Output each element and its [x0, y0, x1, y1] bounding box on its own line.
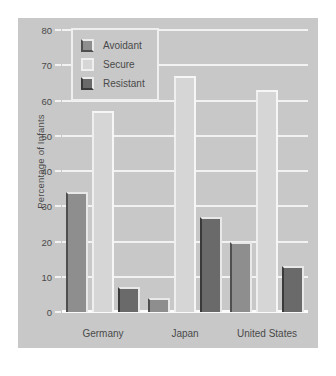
- y-axis-tick: [55, 64, 61, 66]
- legend-label-resistant: Resistant: [103, 78, 145, 89]
- bar-body: [230, 242, 252, 313]
- bar-germany-avoidant: [66, 192, 88, 312]
- y-axis-tick-label: 30: [41, 201, 52, 212]
- chart-legend: Avoidant Secure Resistant: [71, 28, 159, 101]
- bar-body: [256, 90, 278, 312]
- legend-swatch-secure-icon: [81, 58, 94, 71]
- y-axis-tick: [55, 100, 61, 102]
- y-axis-tick-label: 40: [41, 166, 52, 177]
- x-axis-label-germany: Germany: [82, 328, 123, 339]
- y-axis-tick-label: 60: [41, 95, 52, 106]
- bar-body: [118, 287, 140, 312]
- bar-body: [174, 76, 196, 312]
- y-axis-tick-label: 20: [41, 236, 52, 247]
- y-axis-tick: [55, 29, 61, 31]
- bar-body: [92, 111, 114, 312]
- bar-united-states-secure: [256, 90, 278, 312]
- y-axis-tick: [55, 170, 61, 172]
- bar-united-states-avoidant: [230, 242, 252, 313]
- bar-body: [282, 266, 304, 312]
- bar-body: [148, 298, 170, 312]
- y-axis-tick: [55, 311, 61, 313]
- y-axis-tick: [55, 205, 61, 207]
- legend-swatch-avoidant-icon: [81, 39, 94, 52]
- legend-item-avoidant: Avoidant: [81, 36, 145, 55]
- y-axis-tick-label: 50: [41, 130, 52, 141]
- y-axis-tick-label: 80: [41, 25, 52, 36]
- bar-chart: Percentage of Infants 01020304050607080G…: [0, 0, 336, 376]
- y-axis-tick: [55, 241, 61, 243]
- bar-united-states-resistant: [282, 266, 304, 312]
- y-axis-tick: [55, 135, 61, 137]
- y-axis-tick-label: 0: [47, 307, 52, 318]
- y-axis-tick: [55, 276, 61, 278]
- bar-body: [66, 192, 88, 312]
- legend-item-resistant: Resistant: [81, 74, 145, 93]
- bar-body: [200, 217, 222, 312]
- x-axis-label-japan: Japan: [171, 328, 198, 339]
- bar-japan-secure: [174, 76, 196, 312]
- legend-label-avoidant: Avoidant: [103, 40, 142, 51]
- bar-germany-secure: [92, 111, 114, 312]
- bar-japan-resistant: [200, 217, 222, 312]
- bar-japan-avoidant: [148, 298, 170, 312]
- plot-panel: Percentage of Infants 01020304050607080G…: [18, 18, 318, 348]
- bar-germany-resistant: [118, 287, 140, 312]
- legend-label-secure: Secure: [103, 59, 135, 70]
- legend-swatch-resistant-icon: [81, 77, 94, 90]
- y-axis-tick-label: 70: [41, 60, 52, 71]
- x-axis-label-united-states: United States: [237, 328, 297, 339]
- y-axis-tick-label: 10: [41, 271, 52, 282]
- legend-item-secure: Secure: [81, 55, 145, 74]
